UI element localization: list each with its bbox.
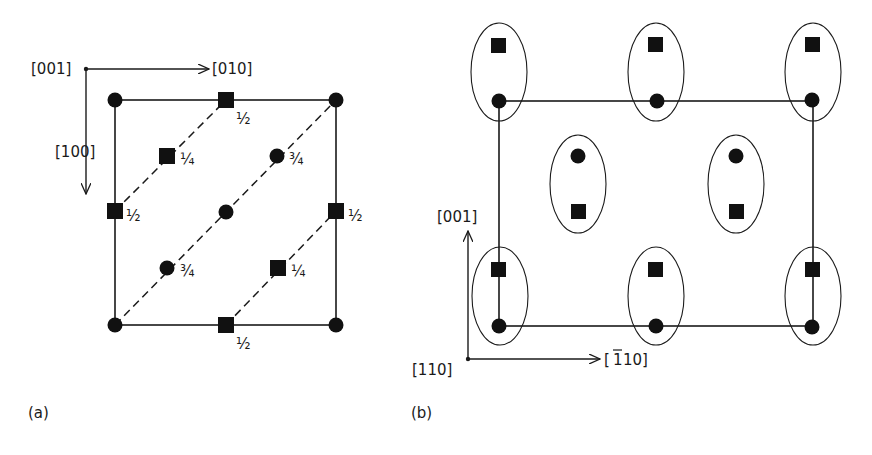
atom-square: [107, 203, 123, 219]
atom-square: [648, 37, 663, 52]
atom-square: [491, 262, 506, 277]
atom-circle: [805, 320, 820, 335]
axis-label-001: [001]: [31, 60, 71, 78]
atom-square: [491, 38, 506, 53]
height-label: ¾: [180, 262, 195, 280]
axis-label-110: [110]: [412, 361, 452, 379]
panel-b-axes: [001] [110] [ 1 10 ]: [412, 208, 648, 379]
atom-circle: [270, 149, 285, 164]
axis-label-001: [001]: [437, 208, 477, 226]
atom-circle: [492, 319, 507, 334]
axis-label-010: [010]: [212, 60, 252, 78]
height-label: ½: [236, 335, 251, 353]
atom-square: [729, 204, 744, 219]
projected-cell-outline: [499, 101, 813, 326]
atom-circle: [219, 205, 234, 220]
atom-square: [218, 92, 234, 108]
panel-a-caption: (a): [28, 404, 49, 422]
atom-circle: [329, 93, 344, 108]
panel-a-axes: [001] [010] [100]: [31, 60, 252, 194]
atom-circle: [649, 319, 664, 334]
atom-circle: [492, 94, 507, 109]
height-label: ½: [236, 110, 251, 128]
axis-label-bracket-close: ]: [642, 351, 648, 369]
atom-circle: [329, 318, 344, 333]
atom-square: [805, 37, 820, 52]
axis-label-bracket-open: [: [604, 351, 610, 369]
height-label: ½: [126, 207, 141, 225]
axis-label-minus110: [ 1 10 ]: [604, 350, 648, 369]
atom-square: [648, 262, 663, 277]
atom-circle: [650, 94, 665, 109]
height-label: ¾: [289, 150, 304, 168]
figure-canvas: [001] [010] [100]: [0, 0, 872, 455]
dumbbell-ellipses: [471, 23, 841, 345]
atom-square: [159, 148, 175, 164]
panel-a: [001] [010] [100]: [28, 60, 363, 422]
atom-circle: [805, 93, 820, 108]
atom-square: [218, 317, 234, 333]
panel-b: [001] [110] [ 1 10 ] (b): [411, 23, 841, 422]
atom-square: [270, 260, 286, 276]
height-label: ½: [348, 207, 363, 225]
atom-circle: [108, 318, 123, 333]
atom-square: [571, 204, 586, 219]
atom-circle: [160, 261, 175, 276]
panel-a-height-labels: ½ ¼ ¾ ½ ½ ¾ ¼ ½: [126, 110, 363, 353]
atom-square: [805, 262, 820, 277]
axis-label-bar-digit: 1: [613, 351, 623, 369]
atom-circle: [108, 93, 123, 108]
atom-square: [328, 203, 344, 219]
height-label: ¼: [291, 262, 306, 280]
axis-label-100: [100]: [55, 143, 95, 161]
panel-b-atoms: [491, 37, 820, 335]
axis-label-rest: 10: [623, 351, 642, 369]
height-label: ¼: [180, 150, 195, 168]
atom-circle: [571, 149, 586, 164]
atom-circle: [729, 149, 744, 164]
panel-b-caption: (b): [411, 404, 432, 422]
